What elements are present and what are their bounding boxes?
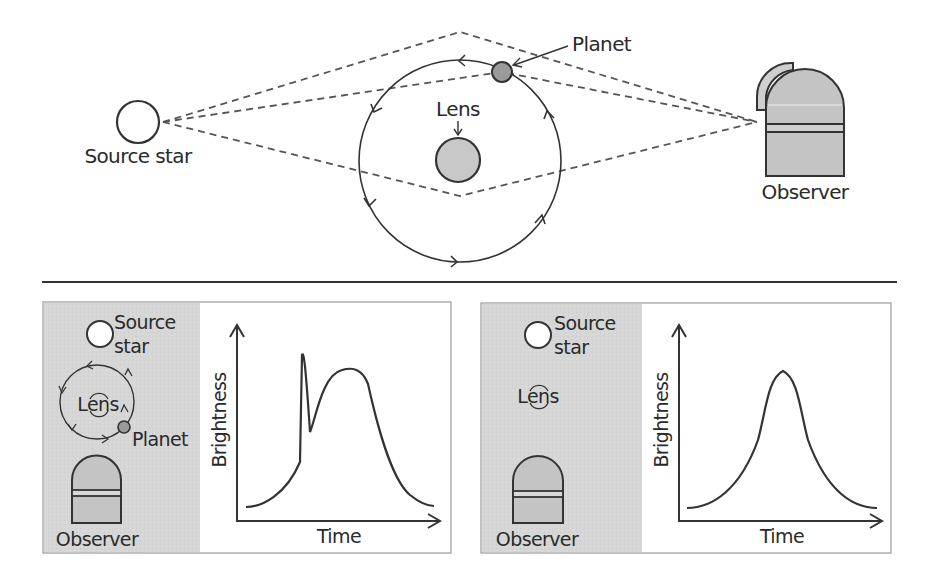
observatory-icon — [757, 63, 844, 176]
planet-icon — [492, 62, 512, 82]
observatory-icon — [72, 456, 121, 524]
y-axis-label: Brightness — [208, 372, 230, 467]
source-star-label-line2: star — [114, 335, 149, 357]
lens-star-icon — [436, 138, 480, 182]
source-star-icon — [117, 101, 159, 143]
observatory-icon — [513, 456, 563, 523]
observer-label: Observer — [496, 528, 579, 550]
source-star-label-line2: star — [554, 336, 589, 358]
panel-with-planet: Source star Lens Planet Observer — [43, 302, 451, 553]
source-star-label-line1: Source — [114, 311, 176, 333]
source-star-icon — [525, 322, 551, 348]
lens-pointer-arrow-icon — [454, 121, 462, 135]
lens-label: Lens — [77, 393, 118, 415]
source-star-icon — [87, 321, 113, 347]
source-star-label: Source star — [84, 144, 193, 168]
y-axis-label: Brightness — [650, 372, 672, 467]
observer-label: Observer — [762, 180, 850, 204]
orbit-arrow-icon — [544, 111, 554, 119]
observer-label: Observer — [56, 528, 139, 550]
lens-label: Lens — [436, 97, 480, 121]
microlensing-diagram: Source star Lens Planet — [0, 0, 936, 585]
x-axis-label: Time — [316, 525, 361, 547]
planet-icon — [118, 421, 130, 433]
source-star-label-line1: Source — [554, 312, 616, 334]
planet-pointer-arrow-icon — [513, 46, 568, 67]
planet-label: Planet — [572, 32, 632, 56]
x-axis-label: Time — [759, 525, 804, 547]
planet-label: Planet — [132, 428, 188, 450]
lens-label: Lens — [517, 385, 558, 407]
panel-without-planet: Source star Lens Observer Brightness Tim… — [481, 303, 891, 553]
top-diagram: Source star Lens Planet — [84, 32, 849, 267]
